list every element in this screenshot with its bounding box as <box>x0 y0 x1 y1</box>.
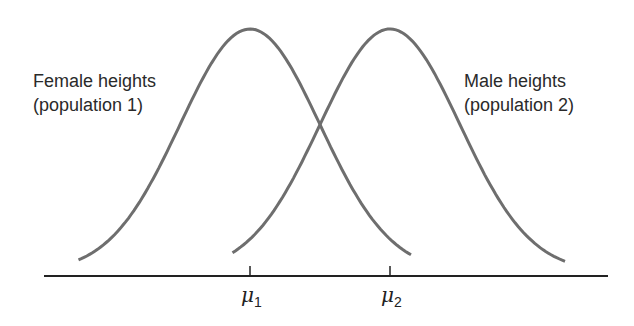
male-heights-curve <box>233 29 566 261</box>
mu1-label: μ1 <box>241 283 262 310</box>
mu2-label: μ2 <box>381 283 402 310</box>
mu1-symbol: μ <box>241 283 254 307</box>
distribution-chart <box>0 0 634 326</box>
male-label-line1: Male heights <box>464 69 574 93</box>
female-label-line2: (population 1) <box>33 93 156 117</box>
female-label: Female heights (population 1) <box>33 69 156 117</box>
mu1-subscript: 1 <box>254 294 262 310</box>
mu2-symbol: μ <box>381 283 394 307</box>
mu2-subscript: 2 <box>394 294 402 310</box>
male-label: Male heights (population 2) <box>464 69 574 117</box>
female-heights-curve <box>79 29 412 260</box>
male-label-line2: (population 2) <box>464 93 574 117</box>
female-label-line1: Female heights <box>33 69 156 93</box>
